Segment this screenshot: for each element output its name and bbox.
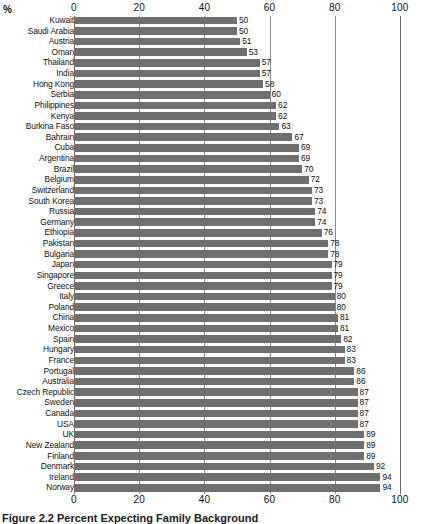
bar [74, 293, 335, 301]
bar-value-label: 87 [360, 408, 369, 418]
bar [74, 282, 332, 290]
bar-row: Germany74 [0, 218, 423, 227]
category-label: Switzerland [32, 185, 74, 195]
bar-row: Greece79 [0, 282, 423, 291]
bar-value-label: 87 [360, 419, 369, 429]
bottom-tick-20: 20 [133, 494, 145, 506]
bar-row: New Zealand89 [0, 441, 423, 450]
bar [74, 314, 338, 322]
bar-row: Hungary83 [0, 345, 423, 354]
bar-row: Finland89 [0, 452, 423, 461]
bar [74, 38, 240, 46]
category-label: Austria [49, 36, 74, 46]
bar [74, 165, 302, 173]
bar-row: Kenya62 [0, 112, 423, 121]
category-label: Hong Kong [33, 79, 74, 89]
bar-row: Argentina69 [0, 154, 423, 163]
bar [74, 229, 322, 237]
category-label: Burkina Faso [26, 121, 74, 131]
bottom-tick-40: 40 [199, 494, 211, 506]
bar [74, 91, 270, 99]
category-label: Finland [47, 451, 74, 461]
bar-row: Oman53 [0, 48, 423, 57]
bar-row: Russia74 [0, 207, 423, 216]
bar-row: Bahrain67 [0, 133, 423, 142]
category-label: Pakistan [43, 238, 74, 248]
bar [74, 102, 276, 110]
bar-row: Kuwait50 [0, 16, 423, 25]
bar-row: Saudi Arabia50 [0, 27, 423, 36]
bar-row: Australia86 [0, 377, 423, 386]
bar-row: Denmark92 [0, 462, 423, 471]
bar-value-label: 74 [317, 217, 326, 227]
bar [74, 261, 332, 269]
bar-value-label: 50 [239, 15, 248, 25]
bar [74, 187, 312, 195]
bar [74, 357, 345, 365]
bar-row: Portugal86 [0, 367, 423, 376]
bar-value-label: 86 [356, 366, 365, 376]
plot-area: Kuwait50Saudi Arabia50Austria51Oman53Tha… [0, 16, 423, 494]
bar [74, 17, 237, 25]
category-label: Italy [59, 291, 74, 301]
category-label: Ethiopia [45, 227, 74, 237]
bar-value-label: 60 [272, 89, 281, 99]
bar-row: Hong Kong58 [0, 80, 423, 89]
bar [74, 144, 299, 152]
bar [74, 431, 364, 439]
category-label: Oman [52, 47, 74, 57]
bar-value-label: 78 [330, 249, 339, 259]
bar [74, 410, 358, 418]
bar [74, 59, 260, 67]
bar-value-label: 63 [281, 121, 290, 131]
category-label: Kenya [51, 111, 74, 121]
bar-value-label: 78 [330, 238, 339, 248]
bar-value-label: 53 [249, 47, 258, 57]
bar-row: Spain82 [0, 335, 423, 344]
bar-row: Japan79 [0, 260, 423, 269]
category-label: Kuwait [49, 15, 74, 25]
bar [74, 452, 364, 460]
bar [74, 112, 276, 120]
bar-value-label: 79 [334, 270, 343, 280]
bar [74, 325, 338, 333]
bar [74, 208, 315, 216]
bar [74, 240, 328, 248]
bar-row: France83 [0, 356, 423, 365]
bar-value-label: 89 [366, 429, 375, 439]
bar-row: China81 [0, 313, 423, 322]
bar-row: Norway94 [0, 483, 423, 492]
bar-row: Philippines62 [0, 101, 423, 110]
top-tick-100: 100 [391, 2, 408, 14]
bar-value-label: 69 [301, 153, 310, 163]
bar-value-label: 83 [347, 344, 356, 354]
category-label: Bahrain [46, 132, 74, 142]
category-label: New Zealand [26, 440, 74, 450]
category-label: Canada [45, 408, 74, 418]
bottom-tick-100: 100 [391, 494, 408, 506]
category-label: South Korea [29, 196, 74, 206]
bar-row: Bulgaria78 [0, 250, 423, 259]
category-label: Denmark [41, 461, 74, 471]
bar-row: Thailand57 [0, 58, 423, 67]
bar-row: Canada87 [0, 409, 423, 418]
top-tick-60: 60 [264, 2, 276, 14]
category-label: Ireland [49, 472, 74, 482]
bar-value-label: 57 [262, 68, 271, 78]
bar [74, 335, 341, 343]
bar [74, 155, 299, 163]
bar-row: Cuba69 [0, 143, 423, 152]
category-label: Thailand [43, 57, 74, 67]
bar-row: Italy80 [0, 292, 423, 301]
bar-value-label: 89 [366, 440, 375, 450]
top-axis: % 020406080100 [0, 2, 423, 16]
bar-value-label: 62 [278, 111, 287, 121]
bar [74, 70, 260, 78]
bar [74, 176, 309, 184]
category-label: Bulgaria [44, 249, 74, 259]
bar-value-label: 81 [340, 312, 349, 322]
bar-row: Ethiopia76 [0, 228, 423, 237]
bar-row: South Korea73 [0, 197, 423, 206]
bar [74, 218, 315, 226]
category-label: Saudi Arabia [28, 26, 74, 36]
